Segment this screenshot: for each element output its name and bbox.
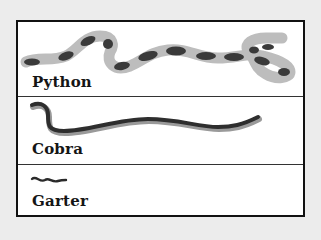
row-cobra: Cobra — [18, 97, 303, 165]
row-garter: Garter — [18, 165, 303, 215]
label-python: Python — [32, 73, 92, 91]
row-python: Python — [18, 22, 303, 97]
snake-comparison-panel: Python Cobra Garter — [16, 20, 305, 217]
label-garter: Garter — [32, 192, 88, 210]
label-cobra: Cobra — [32, 140, 83, 158]
